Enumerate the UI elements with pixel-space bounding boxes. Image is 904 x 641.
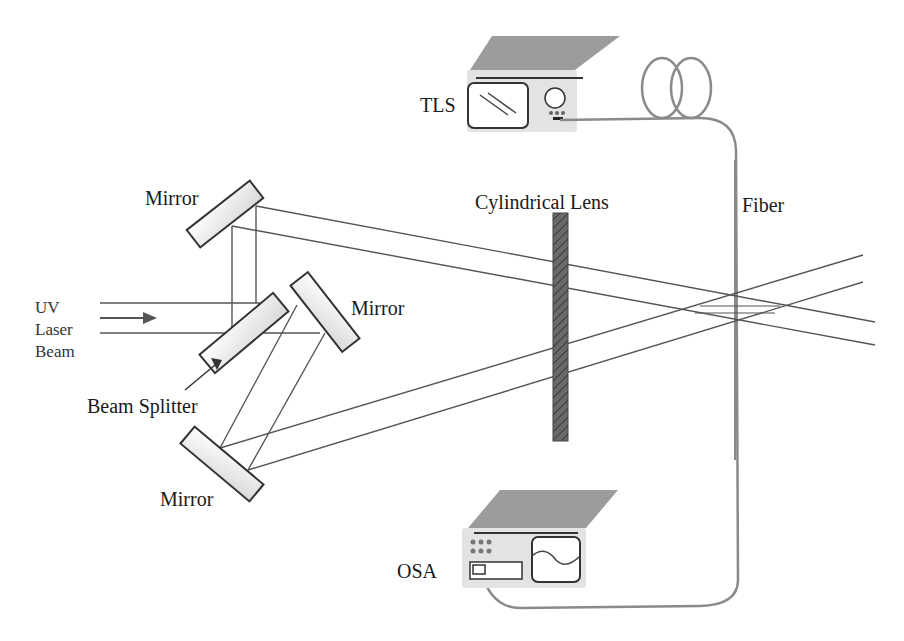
beam-splitter-label: Beam Splitter [87, 396, 198, 416]
uv-label: UV [35, 299, 60, 316]
tls-device [467, 36, 620, 132]
mirror-top-label: Mirror [145, 188, 198, 208]
laser-beams [100, 206, 875, 470]
cylindrical-lens-label: Cylindrical Lens [475, 192, 609, 212]
osa-label: OSA [397, 561, 437, 581]
tls-label: TLS [420, 95, 456, 115]
beam-splitter-pointer-icon [185, 358, 222, 390]
beam-label: Beam [35, 343, 75, 360]
mirror-bottom-label: Mirror [160, 489, 213, 509]
mirror-right-label: Mirror [351, 298, 404, 318]
cylindrical-lens [553, 213, 568, 441]
laser-label: Laser [35, 321, 73, 338]
uv-arrow-icon [100, 312, 157, 324]
fiber-label: Fiber [742, 195, 784, 215]
mirror-right [290, 272, 359, 352]
osa-device [462, 490, 618, 588]
